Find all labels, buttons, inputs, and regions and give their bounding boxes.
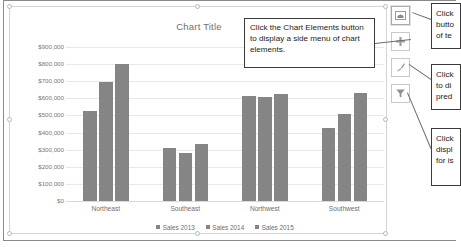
y-axis-tick-label: $800,000 (38, 60, 64, 68)
chart-side-buttons (391, 6, 413, 111)
callout-right-1: Clickbuttoof te (431, 3, 461, 49)
leader-line (407, 93, 432, 150)
chart-area-button[interactable] (391, 6, 410, 25)
bar-southeast-sales-2015[interactable] (195, 144, 209, 201)
y-axis-tick-label: $400,000 (38, 129, 64, 137)
chart-area-icon (395, 10, 406, 21)
y-axis-tick-label: $300,000 (38, 146, 64, 154)
callout-line: Click (436, 69, 460, 80)
category-label-northwest: Northwest (225, 204, 305, 214)
legend-label: Sales 2014 (212, 224, 244, 231)
page-rule-left (3, 0, 4, 241)
bar-northeast-sales-2015[interactable] (115, 64, 129, 201)
gridline (66, 167, 384, 168)
leader-line (412, 12, 431, 20)
chart-styles-button[interactable] (391, 58, 410, 77)
selection-handle-sw[interactable] (7, 231, 12, 236)
bar-northeast-sales-2014[interactable] (99, 82, 113, 201)
selection-handle-n[interactable] (195, 4, 200, 9)
callout-chart-elements: Click the Chart Elements button to displ… (244, 18, 375, 68)
page-rule-top (3, 0, 456, 1)
legend-swatch-icon (255, 225, 259, 229)
gridline (66, 81, 384, 82)
y-axis-tick-label: $600,000 (38, 94, 64, 102)
selection-handle-nw[interactable] (7, 4, 12, 9)
callout-line: of te (436, 30, 460, 41)
plot-area[interactable] (66, 47, 384, 201)
bar-northeast-sales-2013[interactable] (83, 111, 97, 201)
y-axis: $0$100,000$200,000$300,000$400,000$500,0… (18, 40, 64, 208)
bar-southwest-sales-2015[interactable] (354, 93, 368, 201)
selection-handle-s[interactable] (195, 231, 200, 236)
category-axis: NortheastSoutheastNorthwestSouthwest (66, 204, 384, 216)
callout-line: Click (436, 8, 460, 19)
bar-northwest-sales-2015[interactable] (274, 94, 288, 201)
gridline (66, 98, 384, 99)
funnel-filter-icon (395, 88, 406, 99)
category-label-southwest: Southwest (305, 204, 385, 214)
axis-baseline (66, 201, 384, 202)
bar-southwest-sales-2013[interactable] (322, 128, 336, 201)
y-axis-tick-label: $500,000 (38, 111, 64, 119)
legend-item-sales-2015[interactable]: Sales 2015 (255, 224, 293, 231)
y-axis-tick-label: $100,000 (38, 180, 64, 188)
bar-southeast-sales-2014[interactable] (179, 153, 193, 201)
callout-line: for is (436, 155, 460, 166)
legend-item-sales-2014[interactable]: Sales 2014 (206, 224, 244, 231)
gridline (66, 133, 384, 134)
callout-line: butto (436, 19, 460, 30)
callout-line: displ (436, 144, 460, 155)
legend-swatch-icon (156, 225, 160, 229)
page-rule-bottom (3, 240, 456, 241)
selection-handle-se[interactable] (383, 231, 388, 236)
y-axis-tick-label: $200,000 (38, 163, 64, 171)
bar-southeast-sales-2013[interactable] (163, 148, 177, 201)
bar-northwest-sales-2014[interactable] (258, 97, 272, 201)
y-axis-tick-label: $700,000 (38, 77, 64, 85)
callout-line: to di (436, 80, 460, 91)
callout-right-3-text: Clickdisplfor is (432, 129, 460, 171)
callout-line: Click (436, 133, 460, 144)
selection-handle-ne[interactable] (383, 4, 388, 9)
callout-right-2: Clickto dipred (431, 64, 461, 110)
gridline (66, 184, 384, 185)
bar-southwest-sales-2014[interactable] (338, 114, 352, 201)
category-label-northeast: Northeast (66, 204, 146, 214)
callout-right-2-text: Clickto dipred (432, 65, 460, 107)
legend-label: Sales 2015 (262, 224, 294, 231)
y-axis-tick-label: $900,000 (38, 43, 64, 51)
bar-northwest-sales-2013[interactable] (242, 96, 256, 201)
legend-swatch-icon (206, 225, 210, 229)
chart-legend[interactable]: Sales 2013Sales 2014Sales 2015 (66, 221, 384, 233)
legend-item-sales-2013[interactable]: Sales 2013 (156, 224, 194, 231)
callout-line: pred (436, 91, 460, 102)
gridline (66, 115, 384, 116)
paintbrush-icon (395, 62, 406, 73)
gridline (66, 150, 384, 151)
selection-handle-e[interactable] (383, 117, 388, 122)
callout-right-1-text: Clickbuttoof te (432, 4, 460, 46)
legend-label: Sales 2013 (163, 224, 195, 231)
callout-chart-elements-text: Click the Chart Elements button to displ… (245, 19, 374, 59)
callout-right-3: Clickdisplfor is (431, 128, 461, 186)
y-axis-tick-label: $0 (57, 197, 64, 205)
selection-handle-w[interactable] (7, 117, 12, 122)
category-label-southeast: Southeast (146, 204, 226, 214)
